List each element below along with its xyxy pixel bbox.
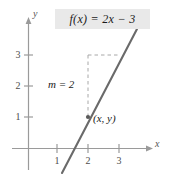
point-marker <box>86 115 90 119</box>
x-axis-label: x <box>155 138 159 149</box>
y-tick-label-2: 2 <box>11 80 25 91</box>
y-tick-label-3: 3 <box>11 49 25 60</box>
y-tick-label-1: 1 <box>11 111 25 122</box>
x-axis <box>12 146 153 152</box>
function-line <box>62 29 137 173</box>
y-axis-label: y <box>33 8 37 19</box>
function-label-text: f(x) = 2x − 3 <box>69 12 135 27</box>
x-tick-label-1: 1 <box>50 155 64 166</box>
y-axis <box>26 17 32 170</box>
x-tick-label-3: 3 <box>112 155 126 166</box>
slope-annotation: m = 2 <box>48 78 74 90</box>
function-label-box: f(x) = 2x − 3 <box>55 9 150 29</box>
linear-function-graph-figure: f(x) = 2x − 3 y x 1 2 3 1 2 3 m = 2 (x, … <box>0 0 169 176</box>
point-coordinate-annotation: (x, y) <box>93 112 116 124</box>
x-tick-label-2: 2 <box>81 155 95 166</box>
